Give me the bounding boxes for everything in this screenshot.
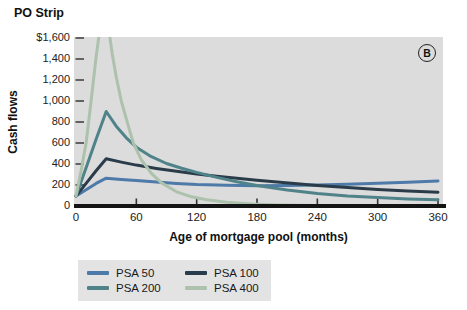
po-strip-figure: PO Strip Cash flows $1,6001,4001,2001,00… bbox=[0, 0, 467, 310]
x-tick-label: 0 bbox=[56, 211, 96, 223]
chart-area: Cash flows $1,6001,4001,2001,00080060040… bbox=[0, 0, 467, 250]
y-tick-label: 1,400 bbox=[10, 52, 70, 64]
y-tick-label: 0 bbox=[10, 199, 70, 211]
y-tick-label: $1,600 bbox=[10, 31, 70, 43]
legend-swatch bbox=[185, 286, 207, 290]
legend-swatch bbox=[87, 271, 109, 275]
legend-label: PSA 400 bbox=[214, 282, 259, 294]
series-line-psa-100 bbox=[76, 159, 438, 196]
legend: PSA 50PSA 100PSA 200PSA 400 bbox=[78, 260, 271, 301]
legend-swatch bbox=[87, 286, 109, 290]
x-tick-label: 360 bbox=[418, 211, 458, 223]
x-tick-label: 120 bbox=[177, 211, 217, 223]
y-tick-label: 1,000 bbox=[10, 94, 70, 106]
y-tick-label: 1,200 bbox=[10, 73, 70, 85]
legend-item-psa-200: PSA 200 bbox=[87, 282, 175, 294]
series-line-psa-200 bbox=[76, 112, 438, 200]
y-tick-label: 200 bbox=[10, 178, 70, 190]
x-tick-label: 300 bbox=[358, 211, 398, 223]
x-tick-label: 60 bbox=[116, 211, 156, 223]
plot-panel: B bbox=[74, 37, 443, 207]
plot-lines bbox=[74, 37, 443, 207]
legend-label: PSA 200 bbox=[116, 282, 161, 294]
legend-label: PSA 50 bbox=[116, 267, 154, 279]
x-tick-label: 240 bbox=[297, 211, 337, 223]
y-tick-label: 400 bbox=[10, 157, 70, 169]
legend-swatch bbox=[185, 271, 207, 275]
panel-b-badge: B bbox=[418, 44, 436, 62]
legend-item-psa-400: PSA 400 bbox=[185, 282, 259, 294]
legend-item-psa-100: PSA 100 bbox=[185, 267, 259, 279]
x-axis-title: Age of mortgage pool (months) bbox=[74, 230, 443, 244]
x-axis-line bbox=[74, 204, 446, 208]
y-tick-label: 800 bbox=[10, 115, 70, 127]
y-tick-label: 600 bbox=[10, 136, 70, 148]
legend-item-psa-50: PSA 50 bbox=[87, 267, 175, 279]
x-tick-label: 180 bbox=[237, 211, 277, 223]
legend-label: PSA 100 bbox=[214, 267, 259, 279]
